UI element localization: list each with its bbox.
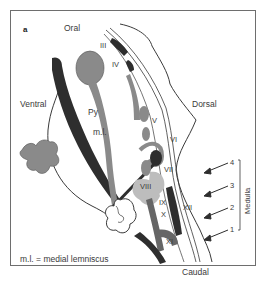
nerve-X: X — [161, 211, 166, 219]
nerve-XI: XI — [166, 238, 173, 246]
nerve-VII: VII — [164, 166, 173, 174]
nerve-IV: IV — [112, 61, 119, 69]
legend: m.l. = medial lemniscus — [20, 255, 109, 264]
panel-label: a — [23, 26, 27, 34]
label-medulla: Medulla — [244, 188, 252, 214]
label-dorsal: Dorsal — [192, 100, 217, 109]
brainstem-diagram — [0, 0, 268, 289]
label-py: Py — [88, 108, 98, 117]
medulla-bracket — [238, 160, 240, 230]
label-oral: Oral — [64, 24, 80, 33]
nerve-VI: VI — [170, 136, 177, 144]
level-arrows — [204, 163, 228, 241]
label-caudal: Caudal — [182, 268, 209, 277]
ml-bulb — [76, 51, 104, 85]
level-2: 2 — [230, 204, 234, 212]
label-ml: m.l. — [93, 128, 107, 137]
gray-blob — [20, 140, 59, 174]
nerve-V: V — [152, 117, 157, 125]
level-1: 1 — [230, 226, 234, 234]
level-3: 3 — [230, 182, 234, 190]
nerve-IX: IX — [159, 199, 166, 207]
nerve-XII: XII — [183, 204, 192, 212]
level-4: 4 — [230, 159, 234, 167]
label-ventral: Ventral — [20, 100, 46, 109]
nerve-III: III — [100, 42, 106, 50]
nerve-VIII: VIII — [140, 183, 151, 191]
